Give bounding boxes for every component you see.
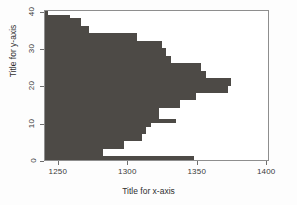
bar bbox=[45, 56, 171, 60]
bar bbox=[45, 93, 196, 97]
bar bbox=[45, 52, 166, 56]
bar bbox=[45, 89, 228, 93]
x-tick bbox=[58, 161, 59, 165]
x-tick-label: 1400 bbox=[246, 167, 286, 176]
bar bbox=[45, 48, 166, 52]
bar bbox=[45, 63, 201, 67]
bar bbox=[45, 134, 142, 138]
bar bbox=[45, 97, 196, 101]
x-tick bbox=[127, 161, 128, 165]
bar bbox=[45, 127, 146, 131]
bar bbox=[45, 145, 124, 149]
bar bbox=[45, 153, 103, 157]
bar bbox=[45, 41, 162, 45]
y-tick bbox=[40, 12, 44, 13]
bar bbox=[45, 18, 81, 22]
bar bbox=[45, 11, 48, 15]
x-tick bbox=[266, 161, 267, 165]
bar bbox=[45, 15, 70, 19]
x-tick-label: 1350 bbox=[177, 167, 217, 176]
y-tick bbox=[40, 161, 44, 162]
y-tick-label: 10 bbox=[14, 119, 36, 128]
bar bbox=[45, 22, 81, 26]
x-tick-label: 1300 bbox=[107, 167, 147, 176]
bar bbox=[45, 108, 159, 112]
bar bbox=[45, 141, 124, 145]
bar bbox=[45, 100, 180, 104]
bar bbox=[45, 37, 137, 41]
plot-area bbox=[44, 10, 269, 161]
bar bbox=[45, 119, 176, 123]
y-tick bbox=[40, 86, 44, 87]
y-tick bbox=[40, 49, 44, 50]
bar bbox=[45, 130, 146, 134]
bar bbox=[45, 74, 206, 78]
bar bbox=[45, 149, 103, 153]
bar bbox=[45, 33, 137, 37]
y-axis-title: Title for y-axis bbox=[8, 0, 18, 111]
bar bbox=[45, 71, 206, 75]
bar bbox=[45, 138, 142, 142]
bar bbox=[45, 45, 162, 49]
bar bbox=[45, 26, 89, 30]
bar bbox=[45, 112, 159, 116]
x-tick-label: 1250 bbox=[38, 167, 78, 176]
bar bbox=[45, 86, 228, 90]
bar-series bbox=[45, 11, 268, 160]
bar bbox=[45, 67, 201, 71]
bar bbox=[45, 104, 180, 108]
x-axis-title: Title for x-axis bbox=[0, 186, 297, 196]
bar bbox=[45, 59, 171, 63]
x-tick bbox=[197, 161, 198, 165]
bar bbox=[45, 115, 159, 119]
chart-root: 1250130013501400 010203040 Title for x-a… bbox=[0, 0, 297, 205]
y-tick-label: 0 bbox=[14, 156, 36, 165]
bar bbox=[45, 156, 194, 160]
bar bbox=[45, 82, 231, 86]
bar bbox=[45, 30, 89, 34]
bar bbox=[45, 78, 231, 82]
bar bbox=[45, 123, 151, 127]
y-tick bbox=[40, 124, 44, 125]
